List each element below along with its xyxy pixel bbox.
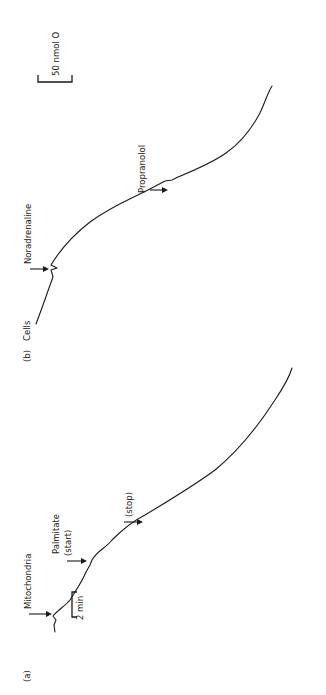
panel-a-label: (a) — [22, 670, 32, 682]
time-scale-bar: 2 min — [72, 592, 85, 620]
panel-b-sample-label: Cells — [22, 320, 32, 341]
noradrenaline-label: Noradrenaline — [23, 204, 33, 264]
noradrenaline-marker: Noradrenaline — [23, 204, 49, 272]
palmitate-stop-marker: (stop) — [124, 492, 143, 525]
palmitate-start-marker: Palmitate (start) — [51, 514, 87, 564]
time-scale-label: 2 min — [75, 596, 85, 620]
panel-a: (a) Mitochondria Palmitate (start) (stop… — [22, 368, 292, 682]
arrow-head-icon — [162, 187, 168, 193]
palmitate-label: Palmitate — [51, 514, 61, 554]
oxygen-trace-figure: (b) Cells Noradrenaline Propranolol (a) … — [0, 0, 326, 695]
trace-b — [36, 86, 272, 324]
mitochondria-marker: Mitochondria — [23, 554, 52, 617]
propranolol-label: Propranolol — [137, 145, 147, 193]
arrow-head-icon — [81, 558, 87, 564]
panel-b-label: (b) — [22, 350, 32, 362]
propranolol-marker: Propranolol — [137, 145, 168, 193]
oxygen-scale-bar: 50 nmol O — [38, 32, 72, 82]
arrow-head-icon — [137, 519, 143, 525]
arrow-head-icon — [46, 611, 52, 617]
stop-label: (stop) — [124, 492, 134, 517]
panel-b: (b) Cells Noradrenaline Propranolol — [22, 86, 272, 362]
oxygen-scale-label: 50 nmol O — [51, 32, 61, 76]
palmitate-start-label: (start) — [63, 530, 73, 556]
trace-a — [53, 368, 292, 632]
arrow-head-icon — [43, 266, 49, 272]
mitochondria-label: Mitochondria — [23, 554, 33, 609]
